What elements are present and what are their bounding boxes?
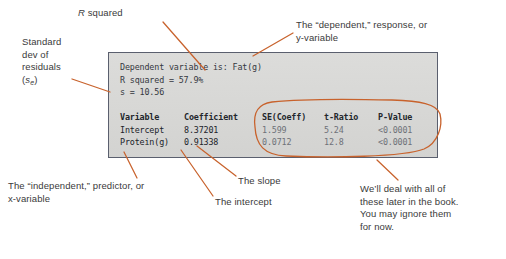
leader-line-note xyxy=(377,160,398,180)
regression-summary: Dependent variable is: Fat(g) R squared … xyxy=(120,61,431,99)
annotation-ignore-note: We’ll deal with all of these later in th… xyxy=(360,183,505,233)
table-header-row: Variable Coefficient SE(Coeff) t-Ratio P… xyxy=(120,111,430,123)
annotation-standard-dev: Standarddev ofresiduals(se) xyxy=(22,36,102,89)
table-row: Protein(g) 0.91338 0.0712 12.8 <0.0001 xyxy=(120,136,430,148)
column-header-coefficient: Coefficient xyxy=(184,111,262,123)
annotation-independent-variable: The “independent,” predictor, or x-varia… xyxy=(8,180,208,205)
dependent-variable-line: Dependent variable is: Fat(g) xyxy=(120,61,431,74)
r-squared-line: R squared = 57.9% xyxy=(120,74,431,87)
cell-variable: Protein(g) xyxy=(120,136,184,148)
cell-se-coeff: 0.0712 xyxy=(262,136,324,148)
annotation-r-squared: R squared xyxy=(78,7,168,20)
column-header-se-coeff: SE(Coeff) xyxy=(262,111,324,123)
annotation-intercept: The intercept xyxy=(215,196,315,209)
cell-coefficient: 8.37201 xyxy=(184,124,262,136)
annotation-standard-dev-line2: dev of xyxy=(22,49,48,60)
coefficients-table: Variable Coefficient SE(Coeff) t-Ratio P… xyxy=(120,111,430,148)
regression-output-box: Dependent variable is: Fat(g) R squared … xyxy=(108,52,438,158)
cell-variable: Intercept xyxy=(120,124,184,136)
regression-output-text: Dependent variable is: Fat(g) R squared … xyxy=(120,61,431,148)
column-header-t-ratio: t-Ratio xyxy=(324,111,378,123)
annotation-r-squared-rest: squared xyxy=(85,7,123,18)
cell-p-value: <0.0001 xyxy=(378,124,430,136)
column-header-p-value: P-Value xyxy=(378,111,430,123)
annotation-standard-dev-line3: residuals xyxy=(22,61,61,72)
annotation-standard-dev-subscript: e xyxy=(30,79,34,86)
table-row: Intercept 8.37201 1.599 5.24 <0.0001 xyxy=(120,124,430,136)
annotation-r-squared-italic: R xyxy=(78,7,85,18)
column-header-variable: Variable xyxy=(120,111,184,123)
cell-t-ratio: 5.24 xyxy=(324,124,378,136)
cell-t-ratio: 12.8 xyxy=(324,136,378,148)
annotation-standard-dev-line1: Standard xyxy=(22,36,61,47)
cell-se-coeff: 1.599 xyxy=(262,124,324,136)
annotation-dependent-variable: The “dependent,” response, or y-variable xyxy=(296,19,486,44)
s-line: s = 10.56 xyxy=(120,86,431,99)
annotation-slope: The slope xyxy=(238,175,328,188)
cell-coefficient: 0.91338 xyxy=(184,136,262,148)
cell-p-value: <0.0001 xyxy=(378,136,430,148)
